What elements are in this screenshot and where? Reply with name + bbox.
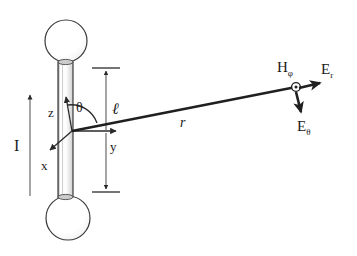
x-axis-label: x bbox=[41, 158, 48, 173]
h-phi-label: Hφ bbox=[277, 59, 293, 78]
diagram-canvas: I ℓ z y x θ bbox=[0, 0, 357, 256]
current-indicator: I bbox=[14, 95, 30, 196]
y-axis-label: y bbox=[110, 139, 117, 154]
e-theta-label: Eθ bbox=[297, 118, 310, 137]
theta-label: θ bbox=[76, 100, 83, 115]
length-label: ℓ bbox=[112, 100, 119, 117]
antenna-structure bbox=[45, 20, 90, 240]
bottom-capacitive-sphere bbox=[46, 194, 90, 240]
z-axis-label: z bbox=[48, 105, 54, 120]
field-point-group: Hφ Er Eθ bbox=[277, 59, 333, 137]
antenna-rod bbox=[58, 62, 73, 198]
current-label: I bbox=[14, 137, 19, 154]
top-capacitive-sphere bbox=[45, 20, 87, 65]
e-r-vector bbox=[299, 83, 320, 88]
e-theta-vector bbox=[296, 92, 301, 112]
length-dimension: ℓ bbox=[92, 68, 120, 192]
radius-label: r bbox=[180, 115, 186, 130]
antenna-diagram-figure: I ℓ z y x θ bbox=[0, 0, 357, 256]
e-r-label: Er bbox=[321, 61, 333, 80]
